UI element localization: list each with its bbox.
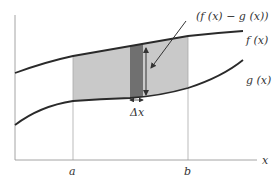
- delta-x-label: Δx: [129, 106, 145, 119]
- x-axis-label: x: [262, 154, 269, 167]
- difference-label: (f (x) − g (x)): [196, 10, 268, 23]
- f-curve-label: f (x): [245, 34, 268, 47]
- b-label: b: [184, 165, 191, 178]
- area-between-curves-diagram: (f (x) − g (x)) f (x) g (x) Δx a b x: [0, 0, 272, 180]
- g-curve-label: g (x): [246, 74, 271, 87]
- delta-x-strip: [130, 44, 143, 98]
- a-label: a: [69, 165, 76, 178]
